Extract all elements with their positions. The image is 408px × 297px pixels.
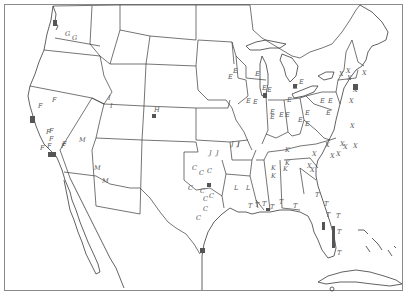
cluster-marker-c: C: [203, 195, 208, 203]
cluster-marker-m: M: [93, 164, 101, 172]
cluster-marker-t: T: [337, 228, 342, 236]
cluster-marker-x: X: [329, 152, 335, 160]
cluster-marker-t: T: [248, 202, 253, 210]
cluster-marker-e: E: [319, 97, 325, 105]
cluster-marker-t: T: [337, 249, 342, 257]
cluster-marker-t: T: [326, 211, 331, 219]
sf-bay-cluster: [30, 116, 35, 123]
dallas-cluster: [207, 183, 211, 187]
cluster-marker-f: F: [46, 142, 52, 150]
cluster-marker-x: X: [309, 166, 315, 174]
cluster-marker-x: X: [349, 122, 355, 130]
cluster-marker-x: X: [361, 69, 367, 77]
cluster-marker-i: I: [109, 102, 113, 110]
cluster-marker-g: G: [72, 34, 77, 42]
cluster-marker-f: F: [61, 140, 67, 148]
cluster-marker-e: E: [284, 111, 290, 119]
cluster-marker-e: E: [325, 109, 331, 117]
cluster-marker-c: C: [192, 164, 197, 172]
cluster-marker-f: F: [51, 96, 57, 104]
cluster-marker-x: X: [338, 70, 344, 78]
cluster-marker-g: G: [65, 30, 70, 38]
cluster-marker-e: E: [232, 67, 238, 75]
cluster-marker-c: C: [207, 167, 212, 175]
la-cluster: [48, 152, 56, 157]
cluster-marker-l: L: [233, 184, 238, 192]
cluster-marker-x: X: [348, 97, 354, 105]
denver-cluster: [152, 114, 156, 118]
cluster-marker-x: X: [342, 143, 348, 151]
cluster-marker-x: X: [346, 74, 352, 82]
cluster-marker-c: C: [200, 187, 205, 195]
cluster-marker-c: C: [209, 192, 214, 200]
cluster-marker-e: E: [269, 113, 275, 121]
cluster-marker-x: X: [311, 150, 317, 158]
cluster-marker-t: T: [270, 203, 275, 211]
cluster-marker-c: C: [188, 184, 193, 192]
cluster-marker-t: T: [293, 202, 298, 210]
cluster-marker-e: E: [254, 70, 260, 78]
cluster-marker-t: T: [315, 191, 320, 199]
cluster-marker-m: M: [101, 177, 109, 185]
houston-cluster: [200, 248, 205, 253]
cluster-marker-f: F: [48, 127, 54, 135]
cluster-marker-c: C: [203, 205, 208, 213]
cluster-marker-e: E: [298, 78, 304, 86]
cluster-marker-x: X: [352, 142, 358, 150]
cluster-marker-i: I: [236, 141, 240, 149]
cluster-marker-f: F: [37, 102, 43, 110]
cluster-marker-t: T: [255, 201, 260, 209]
cluster-marker-x: X: [335, 150, 341, 158]
cluster-marker-t: T: [324, 200, 329, 208]
cluster-marker-e: E: [297, 116, 303, 124]
cluster-marker-t: T: [262, 200, 267, 208]
tampa-cluster: [322, 222, 325, 230]
cluster-marker-i: I: [107, 94, 111, 102]
seattle-cluster: [53, 20, 57, 26]
cluster-marker-c: C: [196, 214, 201, 222]
cluster-marker-e: E: [278, 111, 284, 119]
cluster-marker-m: M: [78, 136, 86, 144]
cluster-marker-e: E: [292, 83, 298, 91]
cluster-marker-e: E: [304, 109, 310, 117]
cluster-marker-e: E: [227, 73, 233, 81]
cluster-marker-e: E: [252, 98, 258, 106]
cluster-marker-e: E: [286, 96, 292, 104]
cluster-marker-e: E: [266, 86, 272, 94]
miami-cluster: [332, 226, 335, 248]
cluster-marker-t: T: [336, 212, 341, 220]
cluster-marker-f: F: [39, 144, 45, 152]
cluster-marker-t: T: [279, 198, 284, 206]
cluster-marker-e: E: [304, 120, 310, 128]
cluster-marker-e: E: [327, 97, 333, 105]
cluster-marker-l: L: [245, 184, 250, 192]
us-map: GGFFFFFFFFFIIMMMHJJJJCCCCCCCCCLLEEEEEEEE…: [0, 0, 408, 297]
cluster-marker-x: X: [324, 141, 330, 149]
cluster-marker-h: H: [153, 106, 160, 114]
cluster-marker-x: X: [352, 86, 358, 94]
cluster-marker-e: E: [245, 97, 251, 105]
cluster-marker-c: C: [199, 169, 204, 177]
